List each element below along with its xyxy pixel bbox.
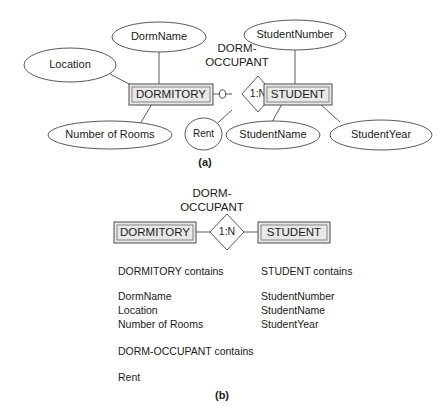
entity-label-student-b: STUDENT <box>267 226 321 238</box>
panel-b: DORM- OCCUPANT 1:N DORMITORY STUDENT DOR… <box>114 187 352 401</box>
connector-numrooms-to-dormitory <box>140 104 152 124</box>
attribute-label-studentname: StudentName <box>239 128 306 140</box>
attribute-label-studentyear: StudentYear <box>351 128 411 140</box>
list-item-student-0: StudentNumber <box>261 290 335 302</box>
entity-label-dormitory-a: DORMITORY <box>136 88 206 100</box>
relationship-label-line1-b: DORM- <box>193 187 232 199</box>
connector-studentyear-to-student <box>320 104 340 122</box>
list-item-dormitory-1: Location <box>118 304 158 316</box>
attribute-label-rent: Rent <box>193 128 214 139</box>
attribute-label-dormname: DormName <box>131 30 187 42</box>
attribute-label-location: Location <box>49 58 91 70</box>
attribute-label-number-of-rooms: Number of Rooms <box>65 128 155 140</box>
connector-studentname-to-student <box>272 104 282 122</box>
er-diagram-canvas: Location DormName Number of Rooms Studen… <box>0 0 446 410</box>
relationship-label-line2-a: OCCUPANT <box>205 56 269 68</box>
list-item-dormitory-0: DormName <box>118 290 172 302</box>
list-item-dormitory-2: Number of Rooms <box>118 318 203 330</box>
relationship-cardinality-b: 1:N <box>219 225 235 237</box>
panel-a: Location DormName Number of Rooms Studen… <box>24 20 432 168</box>
relationship-label-line1-a: DORM- <box>218 42 257 54</box>
list-heading-student-contains: STUDENT contains <box>261 265 352 277</box>
list-heading-dorm-occupant-contains: DORM-OCCUPANT contains <box>118 345 254 357</box>
panel-b-caption: (b) <box>215 389 229 401</box>
list-heading-dormitory-contains: DORMITORY contains <box>118 265 224 277</box>
optionality-zero-circle-icon <box>219 90 225 98</box>
entity-label-dormitory-b: DORMITORY <box>120 226 190 238</box>
er-diagram-figure: Location DormName Number of Rooms Studen… <box>0 0 446 410</box>
list-item-student-2: StudentYear <box>261 318 319 330</box>
relationship-label-line2-b: OCCUPANT <box>180 201 244 213</box>
entity-label-student-a: STUDENT <box>271 88 325 100</box>
attribute-label-studentnumber: StudentNumber <box>256 28 333 40</box>
panel-a-caption: (a) <box>198 156 212 168</box>
list-item-student-1: StudentName <box>261 304 325 316</box>
list-item-dorm-occupant-0: Rent <box>118 371 140 383</box>
